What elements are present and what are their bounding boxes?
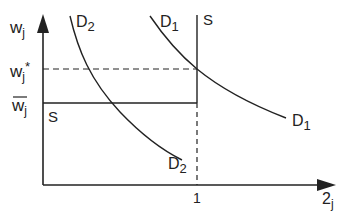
- w-star-label: wj*: [9, 59, 30, 84]
- supply-label-top: S: [203, 11, 213, 28]
- d1-label-bottom: D1: [292, 112, 311, 133]
- d2-label-bottom: D2: [168, 155, 187, 176]
- d2-label-top: D2: [76, 13, 95, 34]
- y-axis-arrow-icon: [37, 14, 49, 33]
- x-axis-label: 2j: [322, 190, 334, 211]
- supply-label-left: S: [48, 108, 58, 125]
- w-bar-label: wj: [11, 96, 27, 118]
- x-tick-one: 1: [193, 190, 201, 206]
- d1-label-top: D1: [160, 13, 179, 34]
- supply-demand-diagram: wj wj* wj S S D2 D2 D1 D1 1 2j: [0, 0, 349, 214]
- y-axis-label: wj: [9, 18, 25, 40]
